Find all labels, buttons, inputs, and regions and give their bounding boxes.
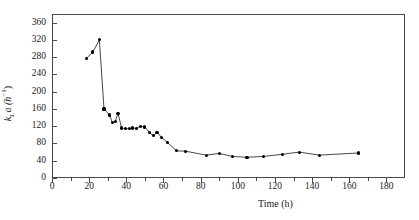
y-tick [52, 57, 57, 58]
x-tick-label: 0 [32, 182, 72, 192]
x-axis-title-text: Time (h) [258, 198, 293, 209]
x-tick-minor [145, 178, 146, 181]
y-tick-label: 280 [6, 52, 46, 62]
y-tick [52, 92, 57, 93]
x-tick-label: 80 [181, 182, 221, 192]
y-tick [52, 126, 57, 127]
x-tick-label: 160 [329, 182, 369, 192]
y-axis-title-mid: a (h [2, 97, 13, 113]
y-axis-title-sup: −1 [0, 89, 8, 96]
x-tick-label: 140 [292, 182, 332, 192]
y-axis-title-base: k [2, 117, 13, 121]
y-tick [52, 23, 57, 24]
x-tick-label: 60 [143, 182, 183, 192]
y-tick [52, 109, 57, 110]
y-tick [52, 161, 57, 162]
x-tick-label: 180 [366, 182, 406, 192]
chart-figure: 04080120160200240280320360 0204060801001… [0, 0, 419, 220]
plot-frame [52, 14, 405, 178]
x-tick-minor [256, 178, 257, 181]
x-tick-minor [182, 178, 183, 181]
y-tick-label: 40 [6, 156, 46, 166]
y-tick [52, 143, 57, 144]
y-tick-label: 80 [6, 138, 46, 148]
y-tick [52, 74, 57, 75]
y-tick-label: 320 [6, 35, 46, 45]
x-tick-label: 40 [106, 182, 146, 192]
y-axis-title-end: ) [2, 86, 13, 89]
x-tick-minor [108, 178, 109, 181]
x-tick-label: 120 [255, 182, 295, 192]
y-axis-title-sub: L [8, 113, 16, 117]
x-tick-minor [219, 178, 220, 181]
x-axis-title: Time (h) [0, 198, 419, 209]
x-tick-label: 100 [218, 182, 258, 192]
x-tick-minor [368, 178, 369, 181]
x-tick-minor [331, 178, 332, 181]
x-tick-label: 20 [69, 182, 109, 192]
x-tick-minor [294, 178, 295, 181]
y-tick [52, 40, 57, 41]
y-tick-label: 360 [6, 18, 46, 28]
x-tick-minor [71, 178, 72, 181]
y-axis-title: kLa (h−1) [0, 74, 15, 134]
